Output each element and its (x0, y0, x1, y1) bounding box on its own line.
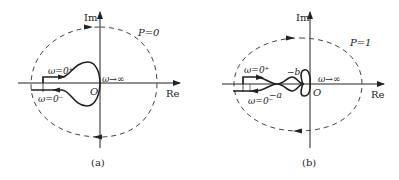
panel-a: Im Re O P=0 ω=0⁺ ω=0⁻ ω→∞ (a) (18, 12, 180, 168)
caption-b: (b) (302, 157, 316, 168)
re-label-b: Re (371, 89, 385, 100)
nyquist-diagram: Im Re O P=0 ω=0⁺ ω=0⁻ ω→∞ (a) Im Re O P=… (0, 0, 399, 180)
p-label-a: P=0 (137, 27, 160, 38)
omega-inf-label-b: ω→∞ (318, 74, 340, 84)
omega-inf-label-a: ω→∞ (102, 74, 124, 84)
panel-b: Im Re O P=1 ω=0⁺ ω=0⁻ ω→∞ −a −b (b) (222, 12, 385, 168)
curve-arrow-lower-a (52, 88, 60, 93)
curve-arrow-lower-b (250, 89, 258, 94)
contour-arrow-top-a (84, 25, 93, 30)
dashed-contour-a (31, 27, 157, 137)
diagram-svg: Im Re O P=0 ω=0⁺ ω=0⁻ ω→∞ (a) Im Re O P=… (0, 0, 399, 180)
re-label-a: Re (166, 88, 180, 99)
caption-a: (a) (91, 157, 105, 168)
omega-0plus-label-b: ω=0⁺ (244, 65, 270, 75)
contour-arrow-bottom-a (93, 135, 102, 140)
origin-label-b: O (313, 87, 321, 98)
point-a-label: −a (269, 90, 282, 100)
p-label-b: P=1 (349, 37, 371, 48)
omega-0plus-label-a: ω=0⁺ (48, 66, 74, 76)
im-label-b: Im (296, 12, 310, 23)
contour-arrow-top-b (286, 36, 295, 41)
im-label-a: Im (84, 12, 98, 23)
contour-arrow-bottom-b (293, 129, 302, 134)
omega-0minus-label-a: ω=0⁻ (38, 94, 64, 104)
origin-label-a: O (90, 86, 98, 97)
point-b-label: −b (287, 67, 301, 77)
